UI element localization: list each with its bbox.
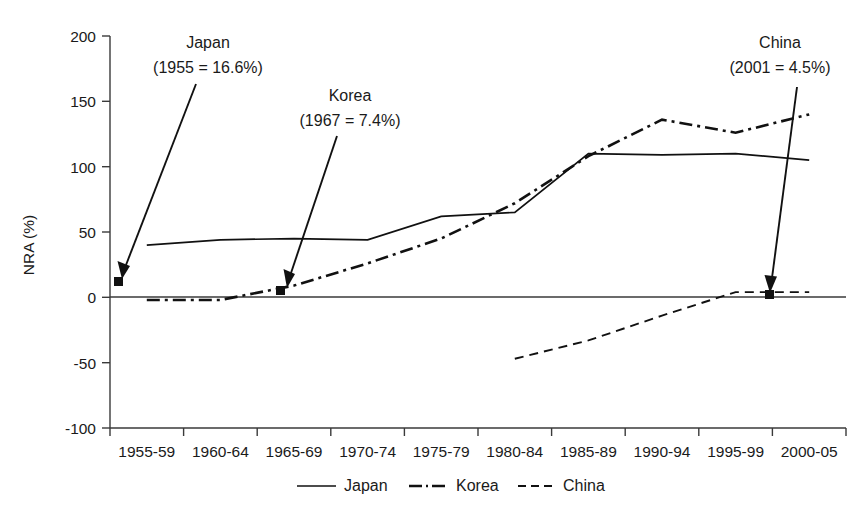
china-annotation-title: China xyxy=(759,34,801,51)
korea-arrow-head-icon xyxy=(284,269,296,288)
x-tick-label-1990-94: 1990-94 xyxy=(634,443,691,460)
x-tick-label-1985-89: 1985-89 xyxy=(560,443,617,460)
series-line-korea xyxy=(147,114,809,300)
x-tick-label-1980-84: 1980-84 xyxy=(486,443,543,460)
japan-annotation-arrow xyxy=(126,84,196,265)
x-tick-label-1955-59: 1955-59 xyxy=(118,443,175,460)
y-axis-ticks xyxy=(102,36,110,428)
nra-line-chart: 200 150 100 50 0 -50 -100 NRA (%) 1955-5… xyxy=(0,0,867,512)
legend-label-china: China xyxy=(563,477,605,494)
y-tick-label-0: 0 xyxy=(87,289,96,306)
x-axis-ticks xyxy=(110,428,846,436)
y-tick-label-50: 50 xyxy=(79,224,97,241)
y-tick-label-200: 200 xyxy=(70,28,96,45)
y-tick-label-neg100: -100 xyxy=(65,420,96,437)
x-tick-label-1965-69: 1965-69 xyxy=(266,443,323,460)
y-tick-label-150: 150 xyxy=(70,93,96,110)
y-tick-label-100: 100 xyxy=(70,159,96,176)
chart-container: 200 150 100 50 0 -50 -100 NRA (%) 1955-5… xyxy=(0,0,867,512)
china-annotation-detail: (2001 = 4.5%) xyxy=(730,59,831,76)
japan-annotation-detail: (1955 = 16.6%) xyxy=(153,59,263,76)
china-annotation: China (2001 = 4.5%) xyxy=(730,34,831,299)
japan-annotation: Japan (1955 = 16.6%) xyxy=(114,34,263,286)
x-tick-label-1975-79: 1975-79 xyxy=(413,443,470,460)
korea-annotation-detail: (1967 = 7.4%) xyxy=(300,112,401,129)
y-axis-title: NRA (%) xyxy=(20,215,37,275)
korea-annotation-arrow xyxy=(291,136,337,273)
x-tick-label-1960-64: 1960-64 xyxy=(192,443,249,460)
x-tick-label-1970-74: 1970-74 xyxy=(339,443,396,460)
x-tick-label-2000-05: 2000-05 xyxy=(781,443,838,460)
china-annotation-arrow xyxy=(772,87,797,278)
korea-annotation: Korea (1967 = 7.4%) xyxy=(276,87,400,295)
series-line-japan xyxy=(147,154,809,245)
legend-label-japan: Japan xyxy=(344,477,388,494)
japan-annotation-title: Japan xyxy=(186,34,230,51)
series-line-china xyxy=(515,292,809,359)
japan-annotation-marker xyxy=(114,277,123,286)
china-annotation-marker xyxy=(765,290,774,299)
korea-annotation-marker xyxy=(276,286,285,295)
chart-legend: Japan Korea China xyxy=(297,477,605,494)
y-tick-label-neg50: -50 xyxy=(74,355,97,372)
japan-arrow-head-icon xyxy=(118,261,131,279)
legend-label-korea: Korea xyxy=(456,477,499,494)
x-tick-label-1995-99: 1995-99 xyxy=(707,443,764,460)
korea-annotation-title: Korea xyxy=(329,87,372,104)
